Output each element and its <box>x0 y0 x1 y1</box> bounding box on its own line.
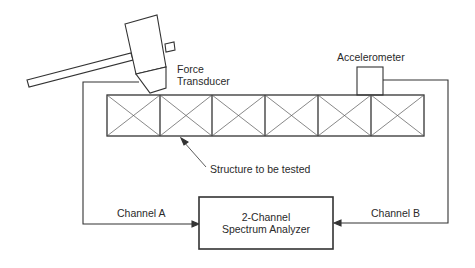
structure-pointer-line <box>183 141 206 167</box>
force-transducer-label-line2: Transducer <box>177 75 230 87</box>
accelerometer-box <box>357 67 383 95</box>
accelerometer-label: Accelerometer <box>337 51 405 63</box>
channel-b-label: Channel B <box>371 207 420 219</box>
wire-channel-a <box>83 82 196 224</box>
structure-label: Structure to be tested <box>210 163 310 175</box>
channel-a-label: Channel A <box>117 207 165 219</box>
arrow-channel-b-icon <box>334 220 341 226</box>
hammer-knob <box>165 42 175 52</box>
arrow-channel-a-icon <box>192 221 199 227</box>
hammer-head <box>125 15 166 93</box>
spectrum-analyzer-label: 2-Channel Spectrum Analyzer <box>199 211 333 235</box>
wire-channel-b <box>337 80 448 223</box>
force-transducer-label-line1: Force <box>177 63 230 75</box>
structure <box>107 95 424 136</box>
structure-pointer-arrow-icon <box>181 138 188 145</box>
analyzer-label-line1: 2-Channel <box>199 211 333 223</box>
force-transducer-label: Force Transducer <box>177 63 230 87</box>
analyzer-label-line2: Spectrum Analyzer <box>199 223 333 235</box>
